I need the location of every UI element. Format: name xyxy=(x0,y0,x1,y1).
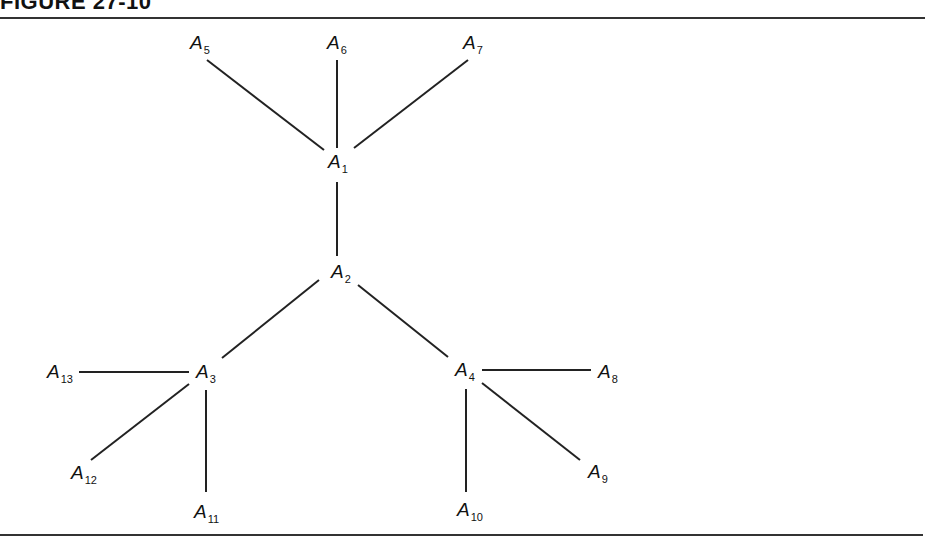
node-letter: A xyxy=(455,359,468,380)
node-letter: A xyxy=(194,501,207,522)
node-subscript: 13 xyxy=(61,373,73,385)
node-a1: A1 xyxy=(328,152,348,175)
node-letter: A xyxy=(331,261,344,282)
node-a4: A4 xyxy=(455,360,475,383)
node-letter: A xyxy=(47,361,60,382)
node-a6: A6 xyxy=(327,33,347,56)
node-subscript: 4 xyxy=(469,371,475,383)
node-letter: A xyxy=(190,32,203,53)
tree-edges xyxy=(0,0,937,550)
edge-a1-a7 xyxy=(354,60,468,148)
node-a2: A2 xyxy=(331,262,351,285)
node-subscript: 1 xyxy=(342,163,348,175)
node-subscript: 6 xyxy=(341,44,347,56)
node-letter: A xyxy=(598,361,611,382)
node-a12: A12 xyxy=(71,463,97,486)
node-letter: A xyxy=(588,461,601,482)
node-a3: A3 xyxy=(196,362,216,385)
node-a13: A13 xyxy=(47,362,73,385)
node-subscript: 10 xyxy=(471,511,483,523)
node-subscript: 2 xyxy=(345,273,351,285)
node-a8: A8 xyxy=(598,362,618,385)
edge-a1-a5 xyxy=(207,60,324,150)
node-letter: A xyxy=(71,462,84,483)
edge-a2-a4 xyxy=(358,285,448,357)
node-letter: A xyxy=(196,361,209,382)
node-subscript: 7 xyxy=(477,44,483,56)
node-a10: A10 xyxy=(457,500,483,523)
edge-a2-a3 xyxy=(222,280,319,358)
edge-a4-a9 xyxy=(482,383,580,460)
node-letter: A xyxy=(328,151,341,172)
edge-a3-a12 xyxy=(91,384,189,460)
node-a11: A11 xyxy=(194,502,219,525)
node-subscript: 5 xyxy=(204,44,210,56)
node-a7: A7 xyxy=(463,33,483,56)
node-a5: A5 xyxy=(190,33,210,56)
node-letter: A xyxy=(327,32,340,53)
node-subscript: 12 xyxy=(85,474,97,486)
node-letter: A xyxy=(457,499,470,520)
node-subscript: 9 xyxy=(602,473,608,485)
node-a9: A9 xyxy=(588,462,608,485)
node-subscript: 11 xyxy=(208,513,219,525)
node-subscript: 8 xyxy=(612,373,618,385)
node-letter: A xyxy=(463,32,476,53)
node-subscript: 3 xyxy=(210,373,216,385)
